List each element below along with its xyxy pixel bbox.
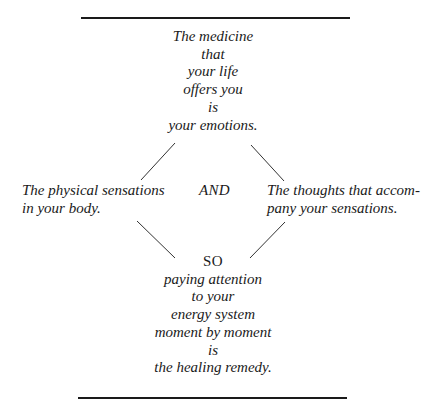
diagram-page: The medicine that your life offers you i… [0, 0, 425, 413]
top-line: your life [113, 63, 313, 81]
top-rule [81, 17, 350, 19]
bottom-line: paying attention [113, 271, 313, 289]
top-line: offers you [113, 81, 313, 99]
so-heading: SO [113, 253, 313, 271]
connector-top-right [251, 145, 284, 181]
top-line: The medicine [113, 28, 313, 46]
connector-top-left [141, 143, 175, 180]
top-statement: The medicine that your life offers you i… [113, 28, 313, 134]
right-line: The thoughts that accom- [267, 181, 420, 199]
top-line: that [113, 46, 313, 64]
left-line: The physical sensations [22, 181, 165, 199]
bottom-statement: SO paying attention to your energy syste… [113, 253, 313, 377]
right-line: pany your sensations. [267, 199, 420, 217]
bottom-line: to your [113, 288, 313, 306]
bottom-line: energy system [113, 306, 313, 324]
and-connector: AND [199, 182, 230, 199]
bottom-line: moment by moment [113, 324, 313, 342]
bottom-rule [78, 397, 347, 399]
bottom-line: is [113, 342, 313, 360]
left-node: The physical sensations in your body. [22, 181, 165, 217]
top-line: your emotions. [113, 117, 313, 135]
bottom-line: the healing remedy. [113, 359, 313, 377]
left-line: in your body. [22, 199, 165, 217]
top-line: is [113, 99, 313, 117]
right-node: The thoughts that accom- pany your sensa… [267, 181, 420, 217]
